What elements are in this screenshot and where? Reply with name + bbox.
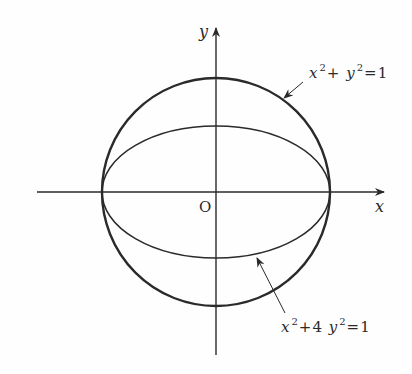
x-axis-label: x — [375, 197, 384, 216]
circle-leader-line — [284, 82, 303, 98]
ellipse-equation-label: x2+4 y2=1 — [281, 316, 371, 336]
origin-label: O — [199, 198, 211, 216]
y-axis-label: y — [199, 22, 208, 41]
circle-equation-label: x2+ y2=1 — [309, 62, 388, 82]
figure-canvas: y x O x2+ y2=1 x2+4 y2=1 — [0, 0, 412, 374]
